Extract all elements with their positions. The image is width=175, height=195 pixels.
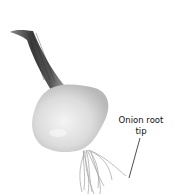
onion-stalk <box>10 30 64 92</box>
label-onion-root-tip: Onion root tip <box>113 115 169 137</box>
onion-diagram: Onion root tip <box>0 0 175 195</box>
label-line-2: tip <box>113 126 169 137</box>
onion-roots <box>80 150 126 194</box>
label-line-1: Onion root <box>113 115 169 126</box>
leader-line <box>129 138 140 178</box>
onion-bulb <box>32 85 108 153</box>
onion-illustration <box>0 0 175 195</box>
